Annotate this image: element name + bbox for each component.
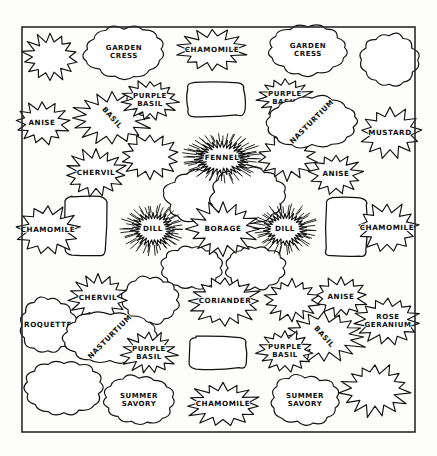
plant-label-line: SAVORY [122,400,157,408]
plant-label: PURPLEBASIL [268,343,302,360]
plant-label: SUMMERSAVORY [120,392,158,409]
plant-label-line: ANISE [327,292,354,301]
plant-cluster: CHAMOMILE [359,204,419,251]
sunburst-ray [156,245,157,253]
plant-label-line: SAVORY [288,400,323,408]
plant-outline [122,135,177,179]
plant-label-line: CORIANDER [199,296,252,305]
plant-outline [339,365,411,418]
plant-label-line: CRESS [110,52,138,60]
plant-label-line: CHAMOMILE [196,399,250,408]
sunburst-ray [295,244,298,249]
plant-label-line: GARDEN [290,42,326,50]
plant-label-line: BASIL [136,353,162,361]
plant-label-line: ROSE [376,313,399,321]
plant-label: ANISE [327,292,354,301]
plant-cluster: GARDENCRESS [268,25,347,77]
plant-cluster: CHERVIL [67,149,126,197]
plant-label: CHAMOMILE [360,223,414,232]
plant-label: CHAMOMILE [196,399,250,408]
plant-label-line: SUMMER [286,392,324,400]
plant-cluster: ANISE [16,102,70,145]
plant-label-line: GARDEN [106,44,142,52]
sunburst-ray [189,145,199,149]
sunburst-ray [219,134,220,142]
plant-cluster: CHAMOMILE [188,382,259,425]
sunburst-ray [247,154,261,155]
plant-label: BORAGE [205,224,242,233]
sunburst-ray [298,242,302,246]
sunburst-ray [154,246,155,256]
garden-bed [189,336,247,370]
sunburst-ray [253,223,265,225]
plant-label-line: BORAGE [205,224,242,233]
plant-label-line: FENNEL [205,153,240,162]
plant-label-line: BASIL [137,100,163,108]
plant-label-line: SUMMER [120,392,158,400]
sunburst-ray [241,143,249,147]
sunburst-ray [159,244,161,249]
plant-label: DILL [143,224,163,233]
plant-label: CHAMOMILE [185,45,239,54]
plant-label: SUMMERSAVORY [286,392,324,409]
sunburst-ray [247,161,257,162]
sunburst-ray [255,232,265,233]
plant-label-line: CHAMOMILE [360,223,414,232]
plant-label-line: ROQUETTE [24,320,72,329]
plant-label: CHERVIL [79,293,117,302]
sunburst-ray [158,204,161,213]
sunburst-ray [148,206,149,212]
sunburst-ray [305,230,316,231]
plant-label-line: MUSTARD [368,128,411,137]
sunburst-ray [238,139,245,144]
plant-cluster: ROSEGERANIUM [354,298,419,345]
plant-label-line: PURPLE [268,90,302,98]
plant-cluster-unlabeled [122,135,177,179]
plant-cluster: GARDENCRESS [83,26,164,80]
plant-label: ROQUETTE [24,320,72,329]
sunburst-ray [145,208,147,214]
plant-label-line: CHAMOMILE [185,45,239,54]
plant-label: GARDENCRESS [106,44,142,61]
plant-label: MUSTARD [368,128,411,137]
plant-cluster: CHAMOMILE [177,29,247,70]
sunburst-ray [283,207,284,213]
plant-label-line: CHERVIL [77,168,115,177]
plant-cluster-unlabeled [360,33,419,86]
plant-outline [21,33,76,80]
plant-label-line: PURPLE [132,345,166,353]
garden-plan-canvas: GARDENCRESSCHAMOMILEGARDENCRESSBASILPURP… [0,0,437,456]
sunburst-ray [287,245,288,255]
plant-label: ANISE [322,169,349,178]
plant-cluster-unlabeled [339,365,411,418]
plant-label-line: PURPLE [133,92,167,100]
sunburst-ray [193,144,202,148]
sunburst-ray [169,215,178,220]
plant-cluster-unlabeled [21,33,76,80]
plant-label-line: ANISE [322,169,349,178]
plant-label-line: PURPLE [268,343,302,351]
garden-plan-drawing: GARDENCRESSCHAMOMILEGARDENCRESSBASILPURP… [0,0,437,456]
plant-label-line: BASIL [272,351,298,359]
plant-cluster: MUSTARD [361,107,421,158]
sunburst-ray [306,225,315,226]
plant-label: FENNEL [205,153,240,162]
plant-label-line: ANISE [28,118,55,127]
sunburst-ray [150,207,151,213]
sunburst-ray [289,204,291,212]
sunburst-ray [160,208,163,214]
garden-bed [187,82,246,117]
sunburst-ray [168,239,176,244]
plant-label: CORIANDER [199,296,252,305]
sunburst-ray [174,225,182,226]
plant-label: DILL [275,224,295,233]
sunburst-ray [136,243,143,252]
sunburst-ray [134,210,140,216]
plant-cluster: SUMMERSAVORY [103,375,174,425]
sunburst-ray [288,246,289,253]
sunburst-ray [121,231,132,232]
plant-cluster: DILL [120,204,183,256]
sunburst-ray [183,153,197,155]
sunburst-ray [143,245,146,253]
sunburst-ray [299,213,303,217]
